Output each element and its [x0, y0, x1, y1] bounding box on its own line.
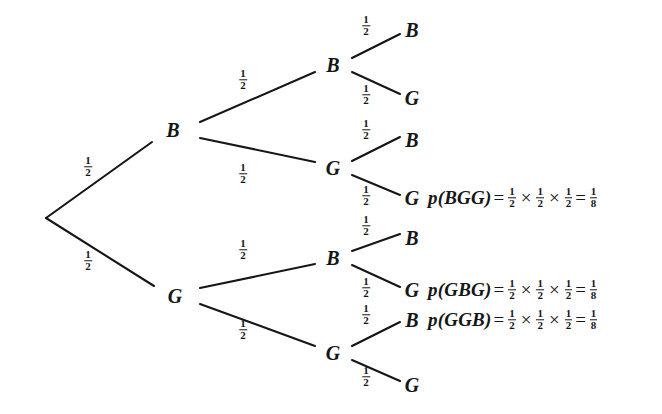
fraction-denominator: 2	[362, 196, 370, 208]
formula-lhs: p(GBG)	[428, 281, 491, 300]
formula-multiply-sign: ×	[545, 281, 564, 300]
fraction-denominator: 2	[536, 320, 544, 332]
tree-node-l2-bg: G	[326, 158, 340, 178]
fraction-numerator: 1	[362, 184, 370, 195]
fraction-numerator: 1	[508, 308, 516, 319]
tree-edge	[200, 72, 315, 122]
tree-node-l3-bbb: B	[405, 20, 418, 40]
fraction-numerator: 1	[508, 278, 516, 289]
formula-multiply-sign: ×	[517, 189, 536, 208]
formula-gbg: p(GBG)=12×12×12=18	[428, 278, 598, 301]
formula-result: 18	[590, 186, 598, 209]
fraction-denominator: 2	[362, 26, 370, 38]
formula-factor-1: 12	[508, 308, 516, 331]
fraction-numerator: 1	[362, 14, 370, 25]
fraction-denominator: 2	[508, 198, 516, 210]
formula-factor-3: 12	[565, 186, 573, 209]
tree-edge	[200, 138, 315, 162]
formula-factor-2: 12	[536, 308, 544, 331]
fraction-denominator: 2	[362, 130, 370, 142]
fraction-numerator: 1	[536, 308, 544, 319]
formula-equals-sign-result: =	[573, 311, 589, 330]
fraction-denominator: 2	[239, 174, 247, 186]
formula-factor-1: 12	[508, 278, 516, 301]
fraction-numerator: 1	[590, 308, 598, 319]
formula-multiply-sign: ×	[517, 281, 536, 300]
fraction-numerator: 1	[239, 68, 247, 79]
tree-edge	[200, 264, 315, 288]
fraction-denominator: 2	[508, 320, 516, 332]
fraction-numerator: 1	[239, 238, 247, 249]
edge-probability-p-bg-bgg: 12	[362, 184, 370, 207]
tree-node-l3-gbb: B	[405, 228, 418, 248]
tree-node-l2-gg: G	[326, 343, 340, 363]
fraction-denominator: 2	[565, 320, 573, 332]
formula-multiply-sign: ×	[545, 311, 564, 330]
fraction-denominator: 2	[508, 290, 516, 302]
tree-edge	[352, 175, 400, 195]
tree-edge	[352, 234, 400, 251]
fraction-numerator: 1	[239, 162, 247, 173]
tree-node-l3-bbg: G	[405, 88, 419, 108]
tree-node-l2-gb: B	[326, 248, 339, 268]
formula-equals-sign: =	[491, 281, 507, 300]
fraction-denominator: 2	[565, 198, 573, 210]
tree-node-l3-bgb: B	[405, 130, 418, 150]
formula-factor-2: 12	[536, 278, 544, 301]
fraction-numerator: 1	[590, 278, 598, 289]
formula-factor-1: 12	[508, 186, 516, 209]
fraction-numerator: 1	[362, 118, 370, 129]
fraction-numerator: 1	[565, 278, 573, 289]
fraction-denominator: 2	[536, 290, 544, 302]
edge-probability-p-g-gg: 12	[239, 318, 247, 341]
tree-edge	[352, 34, 400, 58]
tree-node-l2-bb: B	[326, 55, 339, 75]
formula-result: 18	[590, 308, 598, 331]
fraction-denominator: 2	[565, 290, 573, 302]
fraction-numerator: 1	[565, 186, 573, 197]
fraction-denominator: 2	[84, 167, 92, 179]
fraction-numerator: 1	[536, 186, 544, 197]
fraction-numerator: 1	[84, 249, 92, 260]
formula-factor-2: 12	[536, 186, 544, 209]
tree-node-l1-g: G	[168, 286, 182, 306]
formula-equals-sign: =	[491, 189, 507, 208]
fraction-denominator: 2	[362, 226, 370, 238]
fraction-denominator: 8	[590, 290, 598, 302]
edge-probability-p-gg-ggg: 12	[362, 365, 370, 388]
formula-lhs: p(GGB)	[428, 311, 491, 330]
tree-edge	[46, 142, 152, 218]
edge-probability-p-gb-gbb: 12	[362, 214, 370, 237]
fraction-denominator: 2	[362, 315, 370, 327]
edge-probability-p-bg-bgb: 12	[362, 118, 370, 141]
edge-probability-p-root-g: 12	[84, 249, 92, 272]
edge-probability-p-b-bb: 12	[239, 68, 247, 91]
formula-equals-sign-result: =	[573, 189, 589, 208]
edge-probability-p-gg-ggb: 12	[362, 303, 370, 326]
tree-edge	[352, 265, 400, 287]
edge-probability-p-bb-bbg: 12	[362, 83, 370, 106]
edge-probability-p-bb-bbb: 12	[362, 14, 370, 37]
formula-factor-3: 12	[565, 308, 573, 331]
formula-multiply-sign: ×	[517, 311, 536, 330]
fraction-denominator: 2	[536, 198, 544, 210]
fraction-numerator: 1	[590, 186, 598, 197]
tree-edge	[46, 218, 154, 286]
fraction-numerator: 1	[536, 278, 544, 289]
fraction-numerator: 1	[362, 276, 370, 287]
formula-ggb: p(GGB)=12×12×12=18	[428, 308, 598, 331]
edge-probability-p-g-gb: 12	[239, 238, 247, 261]
formula-equals-sign: =	[491, 311, 507, 330]
tree-node-l1-b: B	[166, 120, 179, 140]
fraction-denominator: 2	[362, 288, 370, 300]
tree-node-l3-ggg: G	[405, 375, 419, 395]
tree-node-l3-bgg: G	[405, 188, 419, 208]
formula-bgg: p(BGG)=12×12×12=18	[428, 186, 598, 209]
fraction-numerator: 1	[508, 186, 516, 197]
fraction-denominator: 2	[239, 80, 247, 92]
fraction-numerator: 1	[84, 155, 92, 166]
tree-edge	[352, 322, 400, 346]
formula-factor-3: 12	[565, 278, 573, 301]
tree-edge	[200, 304, 315, 346]
tree-edge	[352, 360, 400, 381]
